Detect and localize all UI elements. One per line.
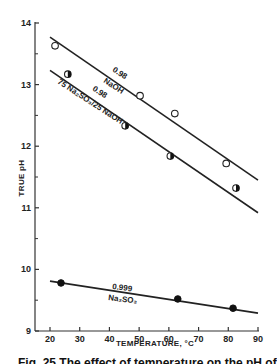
half-filled-circle-marker [65, 71, 72, 78]
y-axis-title: TRUE pH [17, 160, 26, 197]
open-circle-marker [172, 110, 179, 117]
x-tick-label: 80 [223, 334, 233, 344]
x-tick-label: 70 [194, 334, 204, 344]
naoh-correlation-label: 0.98 [111, 65, 129, 81]
data-points [52, 42, 240, 311]
fit-lines [50, 37, 258, 313]
y-tick-label: 12 [21, 141, 31, 151]
filled-circle-marker [230, 305, 237, 312]
figure-caption: Fig. 25 The effect of temperature on the… [18, 352, 277, 364]
y-tick-label: 13 [21, 80, 31, 90]
sulfite-series-label: Na₂SO₃ [108, 293, 138, 306]
y-tick-label: 9 [26, 326, 31, 336]
fit-line-2 [50, 281, 258, 313]
x-axis-title: TEMPERATURE, °C [116, 339, 194, 348]
x-tick-label: 90 [253, 334, 263, 344]
chart-plot: 910111213142030405060708090 TRUE pH TEMP… [0, 0, 277, 350]
half-filled-circle-marker [233, 185, 240, 192]
x-tick-label: 40 [104, 334, 114, 344]
half-filled-circle-marker [167, 153, 174, 160]
y-tick-label: 11 [21, 203, 31, 213]
open-circle-marker [137, 92, 144, 99]
half-filled-circle-marker [122, 123, 129, 130]
y-tick-label: 14 [21, 18, 31, 28]
open-circle-marker [52, 42, 59, 49]
x-tick-label: 20 [45, 334, 55, 344]
filled-circle-marker [58, 280, 65, 287]
x-tick-label: 30 [75, 334, 85, 344]
fit-line-0 [50, 37, 258, 180]
y-tick-label: 10 [21, 264, 31, 274]
open-circle-marker [223, 160, 230, 167]
filled-circle-marker [174, 296, 181, 303]
